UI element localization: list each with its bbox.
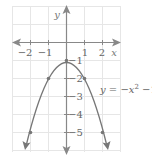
y-tick-label: −1 — [68, 55, 83, 66]
x-tick-label: 1 — [82, 47, 88, 58]
y-tick-label: −2 — [68, 73, 83, 84]
equation-label: y = −x2 −1 — [99, 83, 152, 95]
y-tick-label: −4 — [68, 109, 83, 120]
x-axis-label: x — [111, 47, 117, 58]
point--1--2 — [47, 77, 51, 81]
equation-prefix: y = −x — [99, 84, 135, 95]
point-0--1 — [65, 59, 69, 63]
point-1--2 — [83, 77, 87, 81]
x-tick-label: −2 — [18, 47, 33, 58]
parabola-chart: −2 −1 1 2 x y −1 −2 −3 −4 −5 y = −x2 −1 — [0, 0, 152, 163]
point--2--5 — [29, 131, 33, 135]
y-tick-label: −3 — [68, 91, 83, 102]
x-tick-label: 2 — [99, 47, 105, 58]
x-tick-label: −1 — [38, 47, 53, 58]
y-axis-label: y — [53, 9, 60, 20]
point-2--5 — [101, 131, 105, 135]
equation-suffix: −1 — [139, 84, 152, 95]
y-tick-label: −5 — [68, 127, 83, 138]
